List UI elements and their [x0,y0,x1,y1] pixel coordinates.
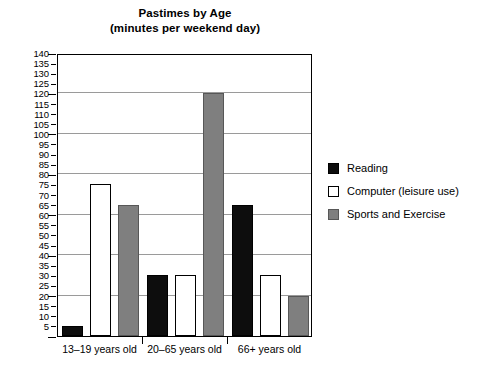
y-axis-label: 70 [19,191,49,200]
y-axis-tick [51,124,56,125]
legend-label: Computer (leisure use) [347,185,459,198]
chart-title-main: Pastimes by Age [57,6,313,21]
y-axis-label: 125 [19,79,49,88]
y-axis-label: 20 [19,292,49,301]
y-axis-tick [51,64,56,65]
y-axis-tick [51,276,56,277]
legend-label: Reading [347,162,388,175]
y-axis-tick [51,155,56,156]
y-axis-tick [51,225,56,226]
y-axis-tick [51,266,56,267]
gridline [58,173,311,174]
x-axis-label: 20–65 years old [142,343,227,355]
y-axis-label: 55 [19,221,49,230]
y-axis-tick [51,316,56,317]
y-axis-tick [48,256,56,257]
plot-area [57,54,312,337]
bar-sports [118,205,139,336]
gridline [58,133,311,134]
y-axis-tick [48,134,56,135]
legend-swatch-computer-icon [328,186,339,197]
x-axis-label: 13–19 years old [57,343,142,355]
y-axis-label: 80 [19,170,49,179]
bar-reading [62,326,83,336]
y-axis-label: 90 [19,150,49,159]
y-axis-tick [51,205,56,206]
y-axis-tick [51,84,56,85]
chart-subtitle: (minutes per weekend day) [57,21,313,36]
legend-label: Sports and Exercise [347,208,445,221]
bar-sports [203,93,224,336]
y-axis-tick [51,286,56,287]
y-axis-tick [48,94,56,95]
y-axis-label: 25 [19,281,49,290]
y-axis-tick [51,306,56,307]
y-axis-label: 95 [19,140,49,149]
legend-item: Computer (leisure use) [328,180,459,203]
bar-computer [90,184,111,336]
bar-sports [288,296,309,336]
y-axis-tick [48,175,56,176]
legend-swatch-sports-icon [328,209,339,220]
y-axis-label: 45 [19,241,49,250]
y-axis-label: 50 [19,231,49,240]
y-axis-tick [51,326,56,327]
legend-item: Sports and Exercise [328,203,459,226]
y-axis-tick [51,185,56,186]
chart-title: Pastimes by Age (minutes per weekend day… [57,6,313,36]
y-axis-tick [51,144,56,145]
y-axis-label: 130 [19,69,49,78]
y-axis-tick [48,215,56,216]
legend-item: Reading [328,157,459,180]
y-axis-tick [51,165,56,166]
x-axis-group-divider [227,337,228,344]
y-axis-tick [51,104,56,105]
y-axis-tick [48,296,56,297]
y-axis-label: 60 [19,211,49,220]
y-axis-label: 140 [19,49,49,58]
y-axis-tick [51,235,56,236]
y-axis-label: 105 [19,120,49,129]
y-axis-label: 35 [19,261,49,270]
y-axis-tick [51,114,56,115]
y-axis-tick [48,54,56,55]
bar-chart: Pastimes by Age (minutes per weekend day… [0,0,482,373]
y-axis-label: 110 [19,110,49,119]
legend-swatch-reading-icon [328,163,339,174]
y-axis-label: 65 [19,201,49,210]
y-axis-label: 40 [19,251,49,260]
y-axis-tick [48,337,56,338]
bar-computer [260,275,281,336]
bar-computer [175,275,196,336]
x-axis-group-divider [142,337,143,344]
bar-reading [147,275,168,336]
plot-inner [58,55,311,336]
y-axis-label: 100 [19,130,49,139]
y-axis-label: 75 [19,180,49,189]
y-axis-tick [51,74,56,75]
x-axis-label: 66+ years old [227,343,312,355]
y-axis-label: 135 [19,59,49,68]
bar-reading [232,205,253,336]
y-axis-label: 10 [19,312,49,321]
y-axis-label: 85 [19,160,49,169]
y-axis-label: 30 [19,271,49,280]
y-axis-label: 5 [19,322,49,331]
chart-legend: ReadingComputer (leisure use)Sports and … [328,157,459,226]
gridline [58,92,311,93]
y-axis-label: 120 [19,89,49,98]
y-axis-tick [51,246,56,247]
y-axis-label: 15 [19,302,49,311]
y-axis-label: 115 [19,100,49,109]
y-axis-tick [51,195,56,196]
